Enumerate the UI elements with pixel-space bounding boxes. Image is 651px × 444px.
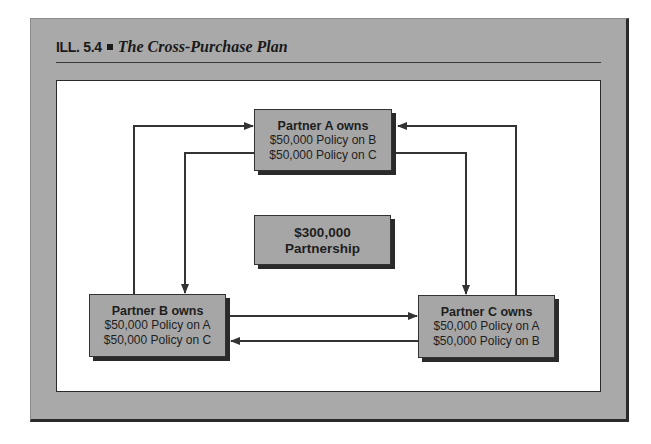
- partnership-label: Partnership: [255, 241, 390, 257]
- arrow-a-to-b: [185, 153, 254, 293]
- partnership-amount: $300,000: [255, 225, 390, 241]
- partner-a-box: Partner A owns $50,000 Policy on B $50,0…: [254, 109, 392, 171]
- partner-c-box: Partner C owns $50,000 Policy on A $50,0…: [418, 295, 555, 358]
- partner-b-policy-1: $50,000 Policy on A: [90, 318, 225, 333]
- partnership-box: $300,000 Partnership: [254, 215, 391, 265]
- partner-b-policy-2: $50,000 Policy on C: [90, 333, 225, 348]
- partner-b-box: Partner B owns $50,000 Policy on A $50,0…: [89, 294, 226, 357]
- partner-c-policy-1: $50,000 Policy on A: [419, 319, 554, 334]
- partner-a-policy-1: $50,000 Policy on B: [255, 133, 391, 148]
- partner-c-heading: Partner C owns: [419, 305, 554, 319]
- arrow-a-to-c: [393, 153, 466, 294]
- arrow-b-to-a: [134, 126, 253, 294]
- partner-c-policy-2: $50,000 Policy on B: [419, 334, 554, 349]
- arrow-c-to-a: [398, 126, 516, 295]
- partner-a-policy-2: $50,000 Policy on C: [255, 148, 391, 163]
- partner-a-heading: Partner A owns: [255, 119, 391, 133]
- partner-b-heading: Partner B owns: [90, 304, 225, 318]
